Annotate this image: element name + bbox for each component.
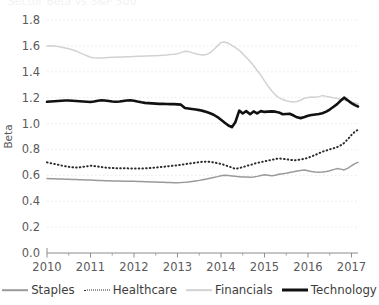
legend-item-technology[interactable]: Technology xyxy=(282,283,377,297)
svg-text:1.6: 1.6 xyxy=(22,39,40,53)
svg-text:0.6: 0.6 xyxy=(22,168,40,182)
svg-text:0.2: 0.2 xyxy=(22,220,40,234)
legend-label: Staples xyxy=(31,283,75,297)
svg-text:1.8: 1.8 xyxy=(22,13,40,27)
legend-swatch-staples-icon xyxy=(2,285,28,295)
svg-text:0.8: 0.8 xyxy=(22,142,40,156)
legend-item-staples[interactable]: Staples xyxy=(2,283,75,297)
svg-text:0.0: 0.0 xyxy=(22,246,40,260)
axes xyxy=(47,248,358,258)
data-series xyxy=(47,42,358,183)
svg-text:1.4: 1.4 xyxy=(22,65,40,79)
svg-text:Beta: Beta xyxy=(2,124,14,148)
svg-text:2011: 2011 xyxy=(76,260,105,274)
beta-line-chart: Sector Beta vs S&P 500 0.00.20.40.60.81.… xyxy=(0,0,379,305)
plot-canvas: 0.00.20.40.60.81.01.21.41.61.8 201020112… xyxy=(0,0,379,305)
legend-item-healthcare[interactable]: Healthcare xyxy=(84,283,177,297)
svg-text:2016: 2016 xyxy=(293,260,322,274)
legend-swatch-financials-icon xyxy=(186,285,212,295)
legend-label: Technology xyxy=(311,283,377,297)
gridlines xyxy=(47,20,358,227)
svg-text:0.4: 0.4 xyxy=(22,194,40,208)
y-tick-labels: 0.00.20.40.60.81.01.21.41.61.8 xyxy=(22,13,40,260)
svg-text:1.0: 1.0 xyxy=(22,117,40,131)
legend-swatch-healthcare-icon xyxy=(84,285,110,295)
svg-text:1.2: 1.2 xyxy=(22,91,40,105)
svg-text:2015: 2015 xyxy=(250,260,279,274)
svg-text:2017: 2017 xyxy=(337,260,366,274)
chart-legend: StaplesHealthcareFinancialsTechnology xyxy=(0,283,379,297)
legend-item-financials[interactable]: Financials xyxy=(186,283,273,297)
legend-swatch-technology-icon xyxy=(282,285,308,295)
svg-text:2013: 2013 xyxy=(163,260,192,274)
y-axis-title: Beta xyxy=(2,124,14,148)
legend-label: Healthcare xyxy=(113,283,177,297)
svg-text:2012: 2012 xyxy=(119,260,148,274)
legend-label: Financials xyxy=(215,283,273,297)
svg-text:2014: 2014 xyxy=(206,260,235,274)
svg-text:2010: 2010 xyxy=(32,260,61,274)
x-tick-labels: 20102011201220132014201520162017 xyxy=(32,260,366,274)
